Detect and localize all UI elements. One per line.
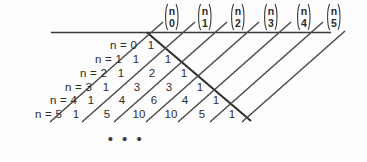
binomial-k: 5: [331, 18, 337, 29]
triangle-cell: 1: [165, 53, 172, 65]
right-paren-icon: [338, 3, 343, 31]
triangle-cell: 1: [73, 108, 80, 120]
triangle-cell: 10: [165, 108, 178, 120]
ascending-diagonal-6: [242, 31, 345, 122]
triangle-cell: 1: [133, 53, 140, 65]
binomial-k: 2: [235, 18, 241, 29]
binomial-k: 3: [268, 18, 274, 29]
triangle-cell: 1: [103, 81, 110, 93]
binomial-n: n: [301, 6, 307, 17]
row-label-n2: n = 2: [80, 67, 107, 79]
triangle-cell: 5: [199, 108, 206, 120]
right-paren-icon: [176, 3, 181, 31]
triangle-cell: 3: [166, 81, 173, 93]
ascending-diagonal-2: [114, 22, 227, 122]
triangle-cell: 5: [104, 108, 111, 120]
binomial-k: 4: [301, 18, 307, 29]
binomial-n: n: [331, 6, 337, 17]
binomial-header: n 5: [325, 2, 342, 32]
pascal-triangle-figure: n 0 n 1 n 2: [0, 0, 367, 162]
row-label-n4: n = 4: [50, 94, 77, 106]
triangle-cell: 2: [149, 67, 156, 79]
binomial-header: n 3: [262, 2, 279, 32]
binomial-n: n: [268, 6, 274, 17]
binomial-n: n: [235, 6, 241, 17]
binomial-header: n 0: [163, 2, 180, 32]
binomial-k: 1: [202, 18, 208, 29]
triangle-cell: 1: [88, 94, 95, 106]
triangle-cell: 1: [118, 67, 125, 79]
triangle-cell: 1: [229, 108, 236, 120]
binomial-header: n 4: [295, 2, 312, 32]
binomial-header: n 1: [196, 2, 213, 32]
right-paren-icon: [275, 3, 280, 31]
row-label-n3: n = 3: [65, 81, 92, 93]
row-label-n1: n = 1: [95, 53, 122, 65]
triangle-cell: 1: [197, 81, 204, 93]
right-paren-icon: [242, 3, 247, 31]
binomial-n: n: [169, 6, 175, 17]
triangle-cell: 10: [133, 108, 146, 120]
row-label-n0: n = 0: [110, 39, 137, 51]
triangle-cell: 4: [182, 94, 189, 106]
triangle-cell: 1: [148, 39, 155, 51]
binomial-n: n: [202, 6, 208, 17]
triangle-cell: 3: [134, 81, 141, 93]
ascending-diagonal-5: [210, 22, 323, 122]
triangle-cell: 1: [213, 94, 220, 106]
continuation-ellipsis: • • •: [108, 130, 145, 147]
binomial-header: n 2: [229, 2, 246, 32]
right-paren-icon: [308, 3, 313, 31]
row-label-n5: n = 5: [35, 108, 62, 120]
triangle-cell: 4: [119, 94, 126, 106]
ascending-diagonal-3: [146, 22, 259, 122]
binomial-k: 0: [169, 18, 175, 29]
triangle-cell: 6: [151, 94, 158, 106]
triangle-cell: 1: [181, 67, 188, 79]
right-paren-icon: [209, 3, 214, 31]
